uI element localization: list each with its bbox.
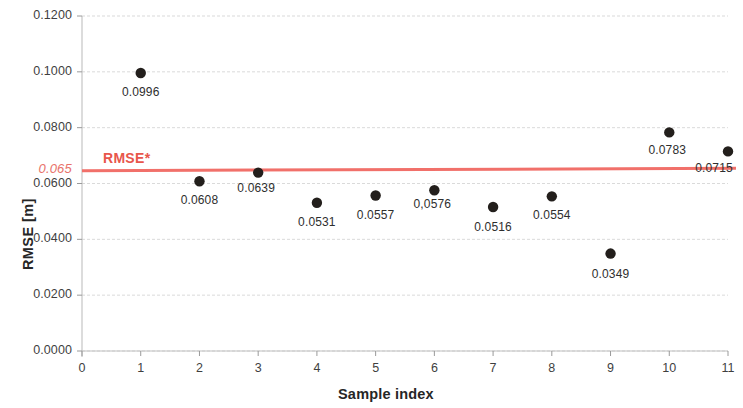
threshold-line-segment <box>82 168 736 170</box>
x-tick-label-1: 1 <box>116 361 166 375</box>
data-point-6 <box>429 185 439 195</box>
threshold-line <box>82 168 736 170</box>
point-value-label-2: 0.0608 <box>169 193 229 207</box>
point-value-label-10: 0.0783 <box>637 143 697 157</box>
y-tick-label-6: 0.1200 <box>0 8 72 22</box>
x-tick-label-5: 5 <box>351 361 401 375</box>
data-point-7 <box>488 202 498 212</box>
data-point-5 <box>370 190 380 200</box>
point-value-label-5: 0.0557 <box>346 208 406 222</box>
data-point-8 <box>547 191 557 201</box>
point-value-label-11: 0.0715 <box>684 161 743 175</box>
x-tick-label-3: 3 <box>233 361 283 375</box>
point-value-label-9: 0.0349 <box>581 267 641 281</box>
x-tick-label-9: 9 <box>586 361 636 375</box>
x-axis-title: Sample index <box>338 386 434 402</box>
gridlines-group <box>82 16 728 351</box>
y-axis-title: RMSE [m] <box>20 198 36 270</box>
axes-group <box>82 16 728 357</box>
y-tick-label-2: 0.0400 <box>0 231 72 245</box>
data-points-group <box>136 68 734 259</box>
point-value-label-7: 0.0516 <box>463 220 523 234</box>
x-tick-label-8: 8 <box>527 361 577 375</box>
threshold-name-label: RMSE* <box>103 150 150 166</box>
data-point-9 <box>605 248 615 258</box>
data-point-1 <box>136 68 146 78</box>
rmse-scatter-chart: 0.00000.02000.04000.06000.08000.10000.12… <box>0 0 743 408</box>
y-tick-label-0: 0.0000 <box>0 343 72 357</box>
x-tick-label-11: 11 <box>703 361 743 375</box>
x-tick-label-0: 0 <box>57 361 107 375</box>
y-tick-label-1: 0.0200 <box>0 287 72 301</box>
point-value-label-1: 0.0996 <box>111 85 171 99</box>
y-tick-marks-group <box>77 16 82 351</box>
x-tick-label-10: 10 <box>644 361 694 375</box>
point-value-label-3: 0.0639 <box>226 181 286 195</box>
y-tick-label-4: 0.0800 <box>0 120 72 134</box>
data-point-4 <box>312 198 322 208</box>
x-tick-label-4: 4 <box>292 361 342 375</box>
y-tick-label-3: 0.0600 <box>0 176 72 190</box>
point-value-label-6: 0,0576 <box>402 197 462 211</box>
y-tick-label-5: 0.1000 <box>0 64 72 78</box>
data-point-2 <box>194 176 204 186</box>
plot-canvas <box>0 0 743 408</box>
threshold-value-label: 0.065 <box>0 161 72 176</box>
data-point-11 <box>723 146 733 156</box>
x-tick-label-7: 7 <box>468 361 518 375</box>
point-value-label-4: 0.0531 <box>287 215 347 229</box>
x-tick-marks-group <box>82 351 728 356</box>
data-point-3 <box>253 167 263 177</box>
data-point-10 <box>664 127 674 137</box>
point-value-label-8: 0.0554 <box>522 208 582 222</box>
x-tick-label-6: 6 <box>409 361 459 375</box>
x-tick-label-2: 2 <box>174 361 224 375</box>
